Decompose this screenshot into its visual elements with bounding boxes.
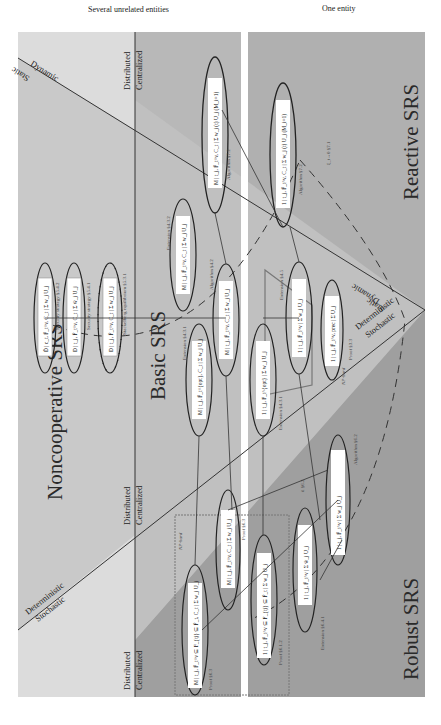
- region-reactive-srs: Reactive SRS: [399, 84, 423, 200]
- svg-text:D̃ | c_t, F̄_t^v, C_t | Σ w_j: D̃ | c_t, F̄_t^v, C_t | Σ w_j U_j: [42, 285, 49, 352]
- svg-text:Security strategy §5.4.2: Security strategy §5.4.2: [55, 282, 60, 330]
- svg-text:Proof §3.3: Proof §3.3: [348, 338, 353, 360]
- svg-text:M | t_j, F̄_t^v ⊆ F_{tj} ⊆ F̄_: M | t_j, F̄_t^v ⊆ F_{tj} ⊆ F̄_t, C_t | Σ…: [193, 581, 200, 685]
- svg-text:Extension §4.5: Extension §4.5: [279, 270, 284, 300]
- region-basic-srs: Basic SRS: [146, 311, 170, 400]
- region-robust-srs: Robust SRS: [399, 578, 423, 680]
- srs-classification-diagram: Noncooperative SRS Basic SRS Reactive SR…: [0, 0, 441, 725]
- svg-text:Algorithm §6.2: Algorithm §6.2: [353, 434, 358, 465]
- svg-text:1 | t_j, F̄_t^v ⊆ F_{tj} ⊆ F̄_: 1 | t_j, F̄_t^v ⊆ F_{tj} ⊆ F̄_t | Σ w_j …: [262, 563, 269, 655]
- svg-text:M | t_j, F̄_t^v, C_t | Σ w_j U: M | t_j, F̄_t^v, C_t | Σ w_j U_j: [224, 288, 230, 355]
- svg-text:Algorithm §4.2: Algorithm §4.2: [209, 259, 214, 290]
- svg-text:Algorithm §7.2: Algorithm §7.2: [226, 149, 231, 180]
- svg-text:Stackelberg equilibrium §5.3.1: Stackelberg equilibrium §5.3.1: [122, 273, 127, 335]
- svg-text:Extension §6.4.1: Extension §6.4.1: [320, 616, 325, 650]
- svg-text:D | t_j, F̄_t^v, C_t | Σ w̄_j: D | t_j, F̄_t^v, C_t | Σ w̄_j U_j: [72, 286, 78, 352]
- label-centralized-bottom: Centralized: [134, 650, 144, 690]
- label-distributed-top: Distributed: [122, 51, 132, 90]
- svg-text:1 | t_j, F̄_t^v | Σ w_j U_j: 1 | t_j, F̄_t^v | Σ w_j U_j: [297, 298, 303, 353]
- svg-text:Security strategy §5.4.1: Security strategy §5.4.1: [86, 282, 91, 330]
- svg-text:NP-hard: NP-hard: [341, 367, 346, 386]
- label-centralized-top: Centralized: [134, 50, 144, 90]
- svg-text:1 | t_j, F̄_t^v, prec | Σ U_j: 1 | t_j, F̄_t^v, prec | Σ U_j: [330, 305, 336, 362]
- svg-text:Proof §6.1.2: Proof §6.1.2: [278, 640, 283, 665]
- svg-text:NP-hard: NP-hard: [178, 532, 183, 551]
- svg-text:M | t_j, F̄_t^{opt}, C_t | Σ w: M | t_j, F̄_t^{opt}, C_t | Σ w_j U_j: [197, 338, 204, 415]
- reactive-limit-label: ξ_t→0 §7.1: [326, 141, 331, 165]
- svg-text:Algorithm §7.2: Algorithm §7.2: [298, 164, 303, 195]
- svg-text:M | t_j, F̄_t^v, C_t | Σ w_j U: M | t_j, F̄_t^v, C_t | Σ w_j U_j: [181, 223, 187, 290]
- svg-text:Extension §4.3.1: Extension §4.3.1: [182, 326, 187, 360]
- svg-text:Extension §4.3.1: Extension §4.3.1: [278, 396, 283, 430]
- svg-text:M | t_j, F̄_t^v, C_t | Σ w_j (: M | t_j, F̄_t^v, C_t | Σ w_j (t) U_j (M_…: [213, 92, 220, 185]
- label-distributed-bottom: Distributed: [122, 651, 132, 690]
- svg-text:1 | t_j, F_t^{opt} | Σ w_j U_j: 1 | t_j, F_t^{opt} | Σ w_j U_j: [261, 351, 268, 415]
- svg-text:D | t_j, F̄_t^v, C_t | Σ w_j U: D | t_j, F̄_t^v, C_t | Σ w_j U_j: [108, 286, 114, 352]
- svg-text:Proof §6.3: Proof §6.3: [241, 518, 246, 540]
- svg-text:Proof §6.3: Proof §6.3: [208, 668, 213, 690]
- svg-text:M | t_j, F̄_t^v, C_t | Σ w_j U: M | t_j, F̄_t^v, C_t | Σ w_j U_j: [226, 518, 232, 585]
- svg-text:1 | t_j, F̄_t^v | Σ w̄_j U_j: 1 | t_j, F̄_t^v | Σ w̄_j U_j: [303, 545, 309, 600]
- label-centralized-mid: Centralized: [134, 485, 144, 525]
- svg-text:1 | t_j, F̄_t^v, C_t | Σ w_j (: 1 | t_j, F̄_t^v, C_t | Σ w_j (t) U_j (M_…: [281, 114, 288, 205]
- label-distributed-mid: Distributed: [122, 486, 132, 525]
- panel-gap: [241, 32, 248, 697]
- svg-text:Extension §4.3.2: Extension §4.3.2: [166, 216, 171, 250]
